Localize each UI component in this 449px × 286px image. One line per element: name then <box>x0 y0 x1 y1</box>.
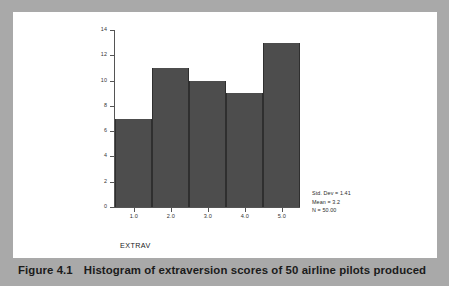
histogram-plot: 02468101214 1.02.03.04.05.0 EXTRAV Std. … <box>13 12 437 258</box>
histogram-bar <box>263 43 300 207</box>
histogram-bar <box>115 119 152 208</box>
statistics-annotation: Std. Dev = 1.41 Mean = 3.2 N = 50.00 <box>312 189 402 215</box>
x-axis-tick: 1.0 <box>134 208 135 212</box>
histogram-bar <box>226 93 263 207</box>
y-axis-tick-label: 6 <box>104 127 107 133</box>
y-axis-tick-label: 4 <box>104 152 107 158</box>
histogram-bars <box>115 30 300 207</box>
x-axis-title: EXTRAV <box>120 241 151 250</box>
x-axis-tick-label: 3.0 <box>204 213 212 219</box>
y-axis-tick-label: 8 <box>104 102 107 108</box>
x-axis-tick: 5.0 <box>282 208 283 212</box>
histogram-bar <box>152 68 189 207</box>
x-axis-tick: 4.0 <box>245 208 246 212</box>
x-axis-tick-label: 1.0 <box>130 213 138 219</box>
x-axis-tick: 2.0 <box>171 208 172 212</box>
figure-card: 02468101214 1.02.03.04.05.0 EXTRAV Std. … <box>13 12 437 258</box>
stat-mean: Mean = 3.2 <box>312 198 402 207</box>
y-axis-tick-label: 0 <box>104 203 107 209</box>
y-axis-tick-label: 2 <box>104 178 107 184</box>
y-axis-tick-label: 14 <box>101 26 107 32</box>
y-axis-tick-label: 10 <box>101 77 107 83</box>
y-axis-tick-label: 12 <box>101 51 107 57</box>
figure-caption-text: Histogram of extraversion scores of 50 a… <box>84 264 426 276</box>
x-axis-tick-label: 4.0 <box>241 213 249 219</box>
histogram-bar <box>189 81 226 207</box>
x-axis-tick: 3.0 <box>208 208 209 212</box>
stat-std-dev: Std. Dev = 1.41 <box>312 189 402 198</box>
y-axis-tick: 0 <box>110 207 115 208</box>
stat-n: N = 50.00 <box>312 206 402 215</box>
figure-caption: Figure 4.1Histogram of extraversion scor… <box>18 264 426 276</box>
x-axis-tick-label: 5.0 <box>278 213 286 219</box>
figure-caption-label: Figure 4.1 <box>18 264 73 276</box>
x-axis-tick-label: 2.0 <box>167 213 175 219</box>
